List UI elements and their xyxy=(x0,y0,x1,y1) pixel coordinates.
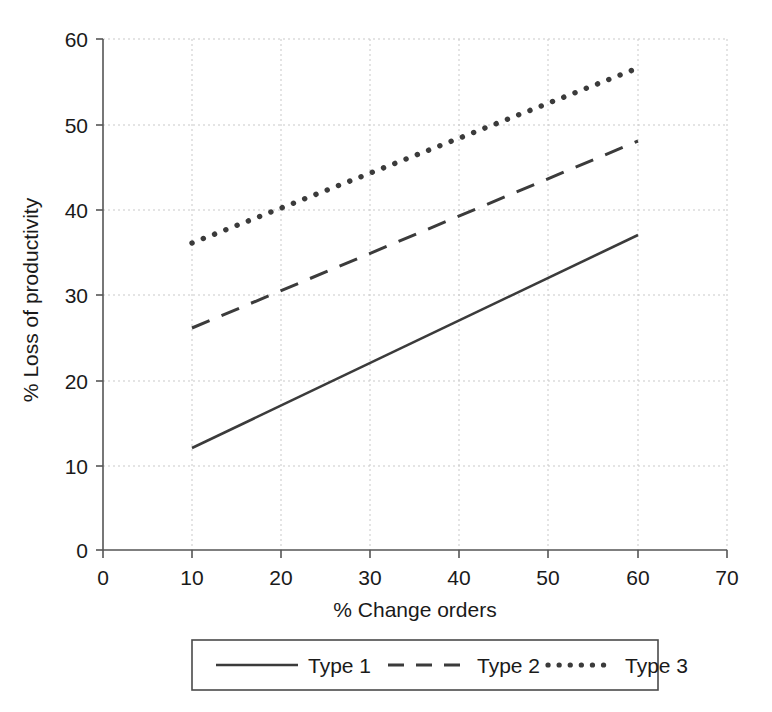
y-tick-label-50: 50 xyxy=(65,114,88,137)
line-chart: 0 10 20 30 40 50 60 0 10 20 30 40 50 60 … xyxy=(0,0,772,712)
legend-entry-type-2[interactable]: Type 2 xyxy=(388,654,540,677)
x-tick-labels: 0 10 20 30 40 50 60 70 xyxy=(97,566,739,589)
x-tick-label-0: 0 xyxy=(97,566,109,589)
x-tick-marks xyxy=(103,550,727,558)
legend-entry-type-3[interactable]: Type 3 xyxy=(548,654,688,677)
legend[interactable]: Type 1 Type 2 Type 3 xyxy=(192,640,688,690)
grid-lines xyxy=(103,39,727,550)
y-tick-label-60: 60 xyxy=(65,28,88,51)
x-tick-label-20: 20 xyxy=(269,566,292,589)
legend-label-type-3: Type 3 xyxy=(625,654,688,677)
y-axis-title: % Loss of productivity xyxy=(19,197,42,402)
x-tick-label-40: 40 xyxy=(447,566,470,589)
legend-entry-type-1[interactable]: Type 1 xyxy=(216,654,371,677)
x-tick-label-60: 60 xyxy=(626,566,649,589)
x-axis-title: % Change orders xyxy=(333,598,496,621)
y-tick-labels: 0 10 20 30 40 50 60 xyxy=(65,28,88,562)
legend-label-type-1: Type 1 xyxy=(308,654,371,677)
x-tick-label-10: 10 xyxy=(180,566,203,589)
x-tick-label-30: 30 xyxy=(358,566,381,589)
x-tick-label-50: 50 xyxy=(536,566,559,589)
series-line-type-2 xyxy=(192,141,638,328)
series-line-type-3 xyxy=(192,68,638,243)
legend-label-type-2: Type 2 xyxy=(477,654,540,677)
y-tick-marks xyxy=(96,39,103,550)
y-tick-label-30: 30 xyxy=(65,284,88,307)
chart-figure: 0 10 20 30 40 50 60 0 10 20 30 40 50 60 … xyxy=(0,0,772,712)
y-tick-label-0: 0 xyxy=(76,539,88,562)
x-tick-label-70: 70 xyxy=(715,566,738,589)
y-tick-label-10: 10 xyxy=(65,455,88,478)
series-line-type-1 xyxy=(192,235,638,448)
y-tick-label-40: 40 xyxy=(65,199,88,222)
y-tick-label-20: 20 xyxy=(65,370,88,393)
